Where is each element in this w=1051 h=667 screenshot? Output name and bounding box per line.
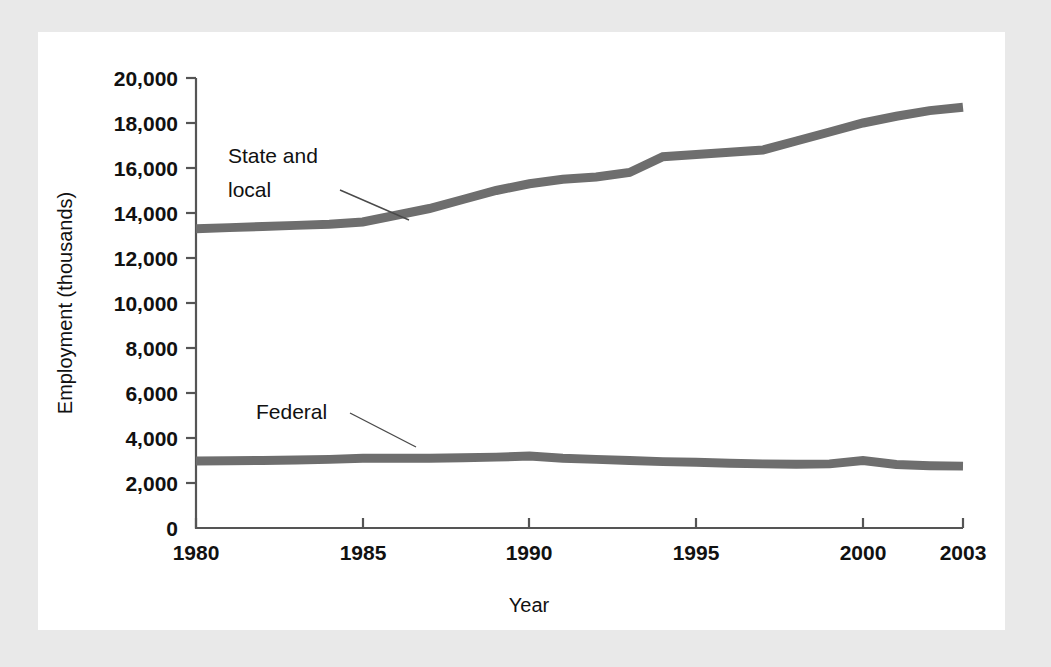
- annotation-leader-line-federal: [350, 413, 416, 447]
- y-axis-title: Employment (thousands): [54, 192, 76, 414]
- y-tick-label: 6,000: [125, 382, 178, 405]
- y-tick-labels: 20,000 18,000 16,000 14,000 12,000 10,00…: [114, 67, 178, 540]
- chart-card: 20,000 18,000 16,000 14,000 12,000 10,00…: [38, 32, 1005, 630]
- annotation-federal: Federal: [256, 400, 416, 447]
- x-tick-label: 2003: [940, 541, 987, 564]
- annotation-label-federal: Federal: [256, 400, 327, 423]
- x-tick-labels: 1980 1985 1990 1995 2000 2003: [173, 541, 987, 564]
- y-tick-label: 8,000: [125, 337, 178, 360]
- series-line-federal: [196, 456, 963, 466]
- y-tick-label: 12,000: [114, 247, 178, 270]
- annotation-state-and-local: State and local: [228, 144, 409, 220]
- x-tick-marks: [196, 518, 963, 528]
- annotation-label-state-and-local-line2: local: [228, 178, 271, 201]
- x-tick-label: 2000: [840, 541, 887, 564]
- annotation-label-state-and-local-line1: State and: [228, 144, 318, 167]
- x-tick-label: 1980: [173, 541, 220, 564]
- x-tick-label: 1995: [673, 541, 720, 564]
- x-axis-title: Year: [509, 594, 550, 616]
- y-tick-marks: [186, 78, 196, 483]
- y-tick-label: 4,000: [125, 427, 178, 450]
- y-tick-label: 16,000: [114, 157, 178, 180]
- figure-page: 20,000 18,000 16,000 14,000 12,000 10,00…: [0, 0, 1051, 667]
- y-tick-label: 14,000: [114, 202, 178, 225]
- y-tick-label: 0: [166, 517, 178, 540]
- line-chart: 20,000 18,000 16,000 14,000 12,000 10,00…: [38, 32, 1005, 630]
- x-tick-label: 1985: [340, 541, 387, 564]
- y-tick-label: 2,000: [125, 472, 178, 495]
- y-tick-label: 10,000: [114, 292, 178, 315]
- y-tick-label: 20,000: [114, 67, 178, 90]
- x-tick-label: 1990: [506, 541, 553, 564]
- y-tick-label: 18,000: [114, 112, 178, 135]
- series-line-state-and-local: [196, 107, 963, 229]
